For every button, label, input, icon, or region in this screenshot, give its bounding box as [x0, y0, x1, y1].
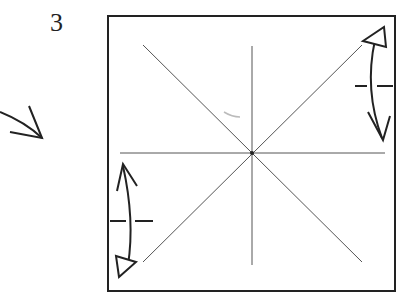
center-point — [250, 151, 254, 155]
fold-arrow-right-icon — [355, 27, 393, 140]
incoming-arrow-icon — [0, 106, 42, 138]
crease-lines — [120, 45, 385, 265]
fold-arrow-left-icon — [110, 164, 153, 277]
faint-mark — [224, 112, 240, 117]
origami-diagram — [0, 0, 412, 305]
